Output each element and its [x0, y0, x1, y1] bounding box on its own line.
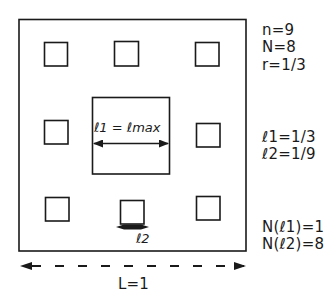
small-square-top-middle — [115, 42, 139, 67]
param-n: n=9 — [262, 22, 294, 39]
length-l1: ℓ1=1/3 — [262, 129, 316, 146]
total-length-label: L=1 — [118, 276, 149, 293]
small-square-middle-left — [45, 121, 69, 145]
small-square-bottom-left — [46, 198, 70, 222]
outer-square — [19, 20, 246, 252]
l2-arrow — [116, 225, 149, 230]
count-N-l2: N(ℓ2)=8 — [262, 236, 324, 253]
small-square-top-right — [196, 43, 220, 67]
center-label-text: ℓ1 = ℓmax — [94, 120, 161, 135]
param-N: N=8 — [262, 39, 296, 56]
count-N-l1: N(ℓ1)=1 — [262, 219, 324, 236]
length-l2: ℓ2=1/9 — [262, 146, 316, 163]
center-length-label: ℓ1 = ℓmax — [94, 120, 161, 135]
small-square-bottom-right — [197, 197, 221, 221]
small-label-text: ℓ2 — [136, 231, 150, 246]
small-square-top-left — [45, 43, 68, 67]
param-r: r=1/3 — [262, 57, 306, 74]
small-square-bottom-middle — [121, 201, 145, 225]
length-arrow — [20, 262, 246, 270]
small-square-middle-right — [197, 124, 221, 148]
center-square — [93, 98, 170, 175]
small-length-label: ℓ2 — [136, 231, 150, 246]
